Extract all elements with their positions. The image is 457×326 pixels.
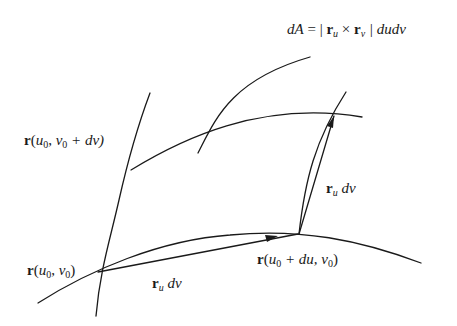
paren: ) [70, 262, 75, 278]
r-symbol: r [257, 251, 264, 267]
label-vector-bottom: ru dv [152, 276, 182, 291]
label-r-u0-plus-du-v0: r(u0 + du, v0) [257, 252, 338, 267]
formula-tail: | dudv [365, 21, 406, 37]
r-symbol: r [326, 180, 333, 196]
paren: ) [333, 251, 338, 267]
v0-curve [38, 233, 421, 303]
formula-cross: × [338, 21, 354, 37]
label-r-u0-v0-plus-dv: r(u0, v0 + dv) [24, 133, 104, 148]
label-rest: + dv) [67, 132, 104, 148]
comma: , [51, 262, 59, 278]
u0-curve [96, 93, 150, 316]
r-symbol: r [27, 262, 34, 278]
formula-r2: r [354, 21, 361, 37]
area-element-formula: dA = | ru × rv | dudv [287, 22, 406, 37]
label-vector-right: ru dv [326, 181, 356, 196]
v-symbol: v [321, 251, 328, 267]
r-symbol: r [24, 132, 31, 148]
formula-eq: = | [304, 21, 327, 37]
vector-d: dv [164, 275, 182, 291]
comma: , [48, 132, 56, 148]
r-symbol: r [152, 275, 159, 291]
vector-d: dv [338, 180, 356, 196]
middle-coordinate-curve [198, 57, 310, 153]
formula-lhs: dA [287, 21, 304, 37]
label-rest: + du, [281, 251, 321, 267]
label-r-u0-v0: r(u0, v0) [27, 263, 75, 278]
vector-rv-line [299, 116, 334, 234]
v0-plus-dv-curve [131, 113, 362, 170]
